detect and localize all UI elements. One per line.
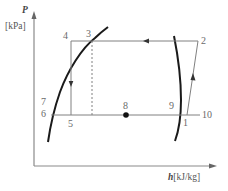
x-axis-unit: [kJ/kg]: [173, 172, 200, 182]
point-8-dot: [123, 112, 129, 118]
ph-diagram: [0, 0, 228, 191]
x-axis-title: h[kJ/kg]: [168, 173, 200, 183]
point-label-2: 2: [201, 36, 206, 46]
point-label-7: 7: [41, 97, 46, 107]
point-label-1: 1: [183, 118, 188, 128]
y-axis-unit: [kPa]: [5, 22, 26, 32]
x-axis-arrow-icon: [209, 164, 217, 169]
down-arrow-icon: [69, 81, 74, 87]
point-label-4: 4: [63, 31, 68, 41]
left-arrow-icon: [143, 39, 149, 44]
saturated-vapor-curve: [174, 36, 181, 141]
point-label-8: 8: [123, 101, 128, 111]
y-axis-symbol: P: [22, 5, 28, 15]
point-label-5: 5: [68, 119, 73, 129]
point-label-3: 3: [86, 29, 91, 39]
y-axis-arrow-icon: [32, 11, 37, 19]
saturated-liquid-curve: [48, 27, 108, 142]
up-arrow-icon: [191, 73, 196, 81]
point-label-10: 10: [202, 110, 212, 120]
point-label-6: 6: [41, 109, 46, 119]
point-label-9: 9: [169, 101, 174, 111]
y-axis-title: P: [22, 6, 28, 16]
axes: [32, 11, 218, 169]
